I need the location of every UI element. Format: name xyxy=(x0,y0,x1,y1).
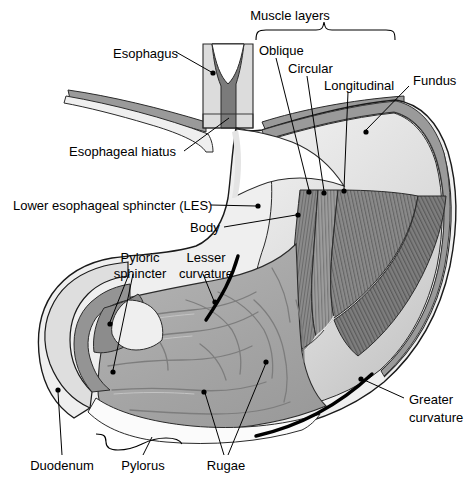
label-lesser-curvature-line1: Lesser xyxy=(186,250,226,265)
label-pylorus: Pylorus xyxy=(121,458,165,473)
dot-les xyxy=(255,203,260,208)
dot-lesser-curvature xyxy=(212,299,217,304)
stomach-anatomy-figure: Muscle layers Esophagus Oblique Circular… xyxy=(0,0,466,478)
label-pyloric-sphincter-line2: sphincter xyxy=(114,266,167,281)
label-circular: Circular xyxy=(288,61,333,76)
dot-duodenum xyxy=(55,387,60,392)
label-lower-esophageal-sphincter: Lower esophageal sphincter (LES) xyxy=(13,198,212,213)
label-duodenum: Duodenum xyxy=(30,458,94,473)
label-esophagus: Esophagus xyxy=(113,46,179,61)
label-longitudinal: Longitudinal xyxy=(324,78,394,93)
label-esophageal-hiatus: Esophageal hiatus xyxy=(69,144,176,159)
label-lesser-curvature-line2: curvature xyxy=(179,266,233,281)
label-greater-curvature-line1: Greater xyxy=(409,392,454,407)
dot-rugae-1 xyxy=(201,389,206,394)
dot-pyloric-1 xyxy=(107,321,112,326)
label-rugae: Rugae xyxy=(207,458,245,473)
label-oblique: Oblique xyxy=(259,43,304,58)
label-greater-curvature-line2: curvature xyxy=(409,410,463,425)
stomach-diagram-svg: Muscle layers Esophagus Oblique Circular… xyxy=(0,0,466,478)
dot-esophagus xyxy=(210,70,215,75)
label-pyloric-sphincter-line1: Pyloric xyxy=(120,250,160,265)
dot-oblique xyxy=(306,189,311,194)
dot-circular xyxy=(321,190,326,195)
esophagus xyxy=(203,44,253,128)
dot-longitudinal xyxy=(341,188,346,193)
dot-rugae-2 xyxy=(263,359,268,364)
label-body: Body xyxy=(190,220,220,235)
muscle-layers-brace xyxy=(256,22,395,40)
diaphragm-left xyxy=(64,90,213,152)
dot-greater-curvature xyxy=(358,376,363,381)
dot-body xyxy=(295,212,300,217)
label-muscle-layers: Muscle layers xyxy=(250,8,330,23)
dot-fundus xyxy=(363,129,368,134)
dot-pyloric-2 xyxy=(110,369,115,374)
label-fundus: Fundus xyxy=(413,73,457,88)
